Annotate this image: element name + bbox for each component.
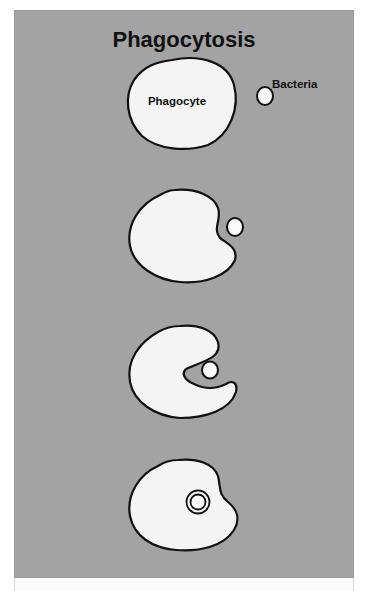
phagocyte-cell	[129, 326, 236, 418]
diagram-title: Phagocytosis	[112, 27, 255, 52]
phagocyte-cell	[129, 190, 235, 283]
stage-2	[129, 190, 243, 283]
stage-3	[129, 326, 236, 418]
bacteria-label: Bacteria	[272, 78, 318, 90]
bacterium	[257, 87, 273, 105]
stage-4	[129, 460, 237, 551]
phagocytosis-diagram: Phagocytosis Phagocyte Bacteria	[0, 0, 368, 591]
bacterium	[227, 218, 243, 236]
phagocyte-cell	[129, 460, 237, 551]
phagocyte-label: Phagocyte	[148, 95, 206, 107]
bacterium	[202, 362, 218, 379]
stage-1: Phagocyte Bacteria	[128, 58, 318, 149]
phagosome-inner	[191, 495, 206, 510]
